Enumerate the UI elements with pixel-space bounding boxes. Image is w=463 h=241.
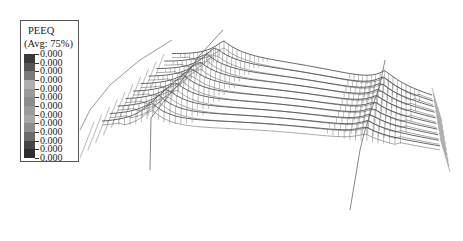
- wireframe-mesh: [0, 0, 463, 241]
